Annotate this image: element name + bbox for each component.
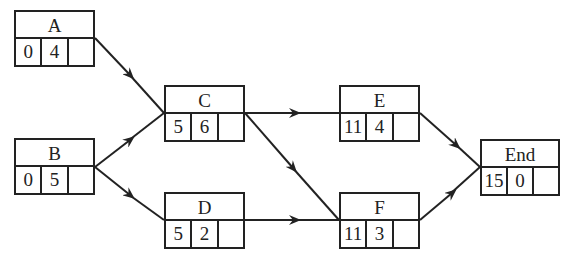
node-label: D [166,194,243,221]
duration: 2 [192,221,218,247]
node-label: C [166,87,243,114]
earliest-start: 11 [341,114,367,140]
earliest-start: 0 [16,39,42,65]
node-label: B [16,140,93,167]
node-label: A [16,12,93,39]
empty-cell [394,221,418,247]
duration: 5 [42,167,68,193]
duration: 4 [42,39,68,65]
node-end: End 150 [480,139,560,196]
node-b: B 05 [14,138,95,195]
node-d: D 52 [164,192,245,249]
duration: 6 [192,114,218,140]
earliest-start: 5 [166,221,192,247]
earliest-start: 0 [16,167,42,193]
node-label: F [341,194,418,221]
earliest-start: 11 [341,221,367,247]
empty-cell [219,114,243,140]
empty-cell [69,39,93,65]
empty-cell [534,168,558,194]
node-a: A 04 [14,10,95,67]
duration: 4 [367,114,393,140]
node-label: End [482,141,558,168]
node-c: C 56 [164,85,245,142]
node-label: E [341,87,418,114]
duration: 3 [367,221,393,247]
earliest-start: 5 [166,114,192,140]
node-f: F 113 [339,192,420,249]
empty-cell [219,221,243,247]
empty-cell [394,114,418,140]
earliest-start: 15 [482,168,508,194]
duration: 0 [508,168,534,194]
empty-cell [69,167,93,193]
node-e: E 114 [339,85,420,142]
